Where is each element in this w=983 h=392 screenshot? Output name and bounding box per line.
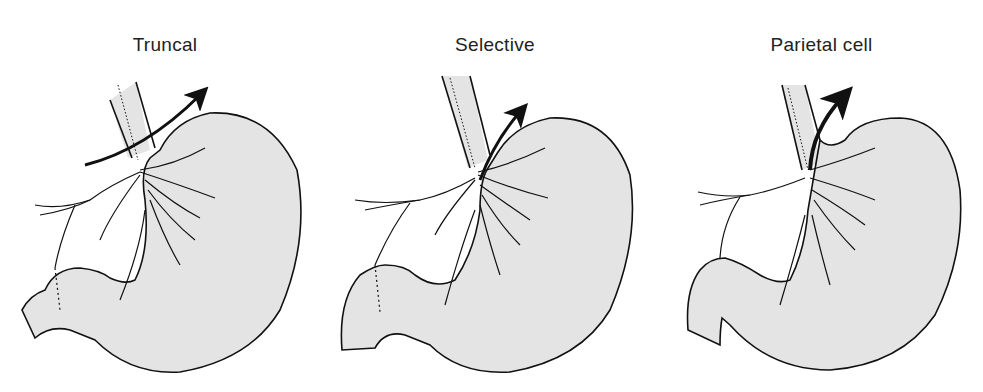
panel-truncal: Truncal	[0, 0, 330, 392]
panel-selective: Selective	[330, 0, 660, 392]
stomach-parietal-cell-illustration	[660, 0, 983, 392]
stomach-selective-illustration	[330, 0, 660, 392]
panel-parietal-cell: Parietal cell	[660, 0, 983, 392]
stomach-truncal-illustration	[0, 0, 330, 392]
